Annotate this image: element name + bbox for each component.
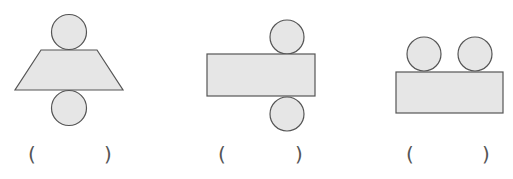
figure-3-right-circle xyxy=(458,37,492,71)
open-paren: ( xyxy=(28,142,36,166)
figures-canvas xyxy=(0,0,513,179)
figure-2-rectangle xyxy=(207,54,315,96)
figure-3 xyxy=(396,37,503,113)
figure-2-top-circle xyxy=(270,20,304,54)
figure-3-rectangle xyxy=(396,72,503,113)
figure-2-bottom-circle xyxy=(270,97,304,131)
figure-1-bottom-circle xyxy=(52,91,87,126)
figure-2 xyxy=(207,20,315,131)
figure-1 xyxy=(15,15,123,126)
close-paren: ) xyxy=(104,142,112,166)
open-paren: ( xyxy=(218,142,226,166)
close-paren: ) xyxy=(482,142,490,166)
close-paren: ) xyxy=(295,142,303,166)
figure-1-trapezoid xyxy=(15,50,123,90)
open-paren: ( xyxy=(406,142,414,166)
figure-1-top-circle xyxy=(52,15,87,50)
figure-3-left-circle xyxy=(407,37,441,71)
